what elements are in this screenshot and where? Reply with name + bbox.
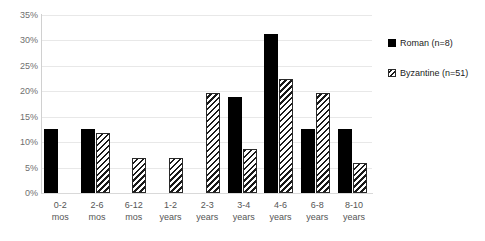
bar-group <box>79 15 116 193</box>
legend-label: Roman (n=8) <box>400 38 453 48</box>
x-tick-line1: 2-6 <box>79 199 116 211</box>
bar-group <box>262 15 299 193</box>
y-tick-label: 5% <box>2 164 38 173</box>
bar-roman[interactable] <box>338 129 352 193</box>
x-tick-line2: mos <box>42 211 79 223</box>
chart-legend: Roman (n=8) Byzantine (n=51) <box>388 36 483 96</box>
x-tick-line1: 2-3 <box>189 199 226 211</box>
x-tick-line1: 0-2 <box>42 199 79 211</box>
bar-roman[interactable] <box>228 97 242 193</box>
y-tick-label: 30% <box>2 36 38 45</box>
y-tick-label: 15% <box>2 113 38 122</box>
x-tick-label: 1-2 years <box>152 199 189 223</box>
y-axis: 35% 30% 25% 20% 15% 10% 5% 0% <box>0 0 38 241</box>
x-tick-line1: 4-6 <box>262 199 299 211</box>
legend-label: Byzantine (n=51) <box>400 68 468 78</box>
x-tick-label: 8-10 years <box>336 199 373 223</box>
bar-roman[interactable] <box>264 34 278 193</box>
bar-group <box>189 15 226 193</box>
x-tick-line2: years <box>152 211 189 223</box>
x-tick-line1: 6-8 <box>299 199 336 211</box>
x-tick-label: 0-2 mos <box>42 199 79 223</box>
legend-item-roman[interactable]: Roman (n=8) <box>388 36 483 49</box>
y-tick-label: 10% <box>2 138 38 147</box>
plot-area <box>42 15 372 193</box>
y-tick-label: 20% <box>2 87 38 96</box>
bar-group <box>115 15 152 193</box>
bar-byzantine[interactable] <box>243 149 257 193</box>
legend-item-byzantine[interactable]: Byzantine (n=51) <box>388 66 483 79</box>
x-tick-line1: 1-2 <box>152 199 189 211</box>
x-tick-line1: 8-10 <box>336 199 373 211</box>
bar-group <box>299 15 336 193</box>
x-tick-line2: years <box>262 211 299 223</box>
legend-swatch-icon <box>388 39 396 47</box>
x-axis-line <box>41 193 373 194</box>
x-tick-line1: 3-4 <box>226 199 263 211</box>
x-tick-line2: years <box>299 211 336 223</box>
x-tick-line2: years <box>336 211 373 223</box>
bar-byzantine[interactable] <box>132 158 146 193</box>
bar-byzantine[interactable] <box>206 93 220 193</box>
bar-byzantine[interactable] <box>353 163 367 193</box>
x-tick-label: 2-3 years <box>189 199 226 223</box>
x-tick-label: 4-6 years <box>262 199 299 223</box>
bar-group <box>42 15 79 193</box>
y-tick-label: 25% <box>2 62 38 71</box>
x-tick-label: 3-4 years <box>226 199 263 223</box>
bar-byzantine[interactable] <box>316 93 330 193</box>
bar-byzantine[interactable] <box>279 79 293 193</box>
x-tick-line2: years <box>226 211 263 223</box>
bar-group <box>336 15 373 193</box>
x-tick-label: 6-12 mos <box>115 199 152 223</box>
bar-roman[interactable] <box>301 129 315 193</box>
x-tick-line2: mos <box>115 211 152 223</box>
x-tick-label: 2-6 mos <box>79 199 116 223</box>
bar-byzantine[interactable] <box>169 158 183 193</box>
y-tick-label: 0% <box>2 189 38 198</box>
x-tick-line2: mos <box>79 211 116 223</box>
legend-swatch-icon <box>388 69 396 77</box>
x-tick-line1: 6-12 <box>115 199 152 211</box>
bar-group <box>152 15 189 193</box>
bar-roman[interactable] <box>81 129 95 193</box>
bar-roman[interactable] <box>44 129 58 193</box>
bar-chart: 35% 30% 25% 20% 15% 10% 5% 0% <box>0 0 485 241</box>
bar-group <box>226 15 263 193</box>
y-tick-label: 35% <box>2 11 38 20</box>
x-tick-line2: years <box>189 211 226 223</box>
bar-byzantine[interactable] <box>96 133 110 193</box>
x-tick-label: 6-8 years <box>299 199 336 223</box>
